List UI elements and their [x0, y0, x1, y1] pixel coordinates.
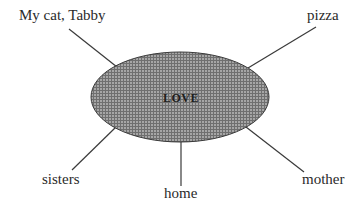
node-label-home: home: [164, 186, 197, 201]
center-label-love: LOVE: [163, 92, 199, 104]
node-label-mother: mother: [302, 172, 345, 187]
connector-sisters: [72, 127, 116, 170]
node-label-tabby: My cat, Tabby: [19, 8, 106, 23]
node-label-sisters: sisters: [42, 172, 80, 187]
connector-mother: [246, 127, 304, 172]
node-label-pizza: pizza: [307, 8, 339, 23]
connector-tabby: [69, 29, 117, 67]
connector-pizza: [248, 27, 316, 68]
